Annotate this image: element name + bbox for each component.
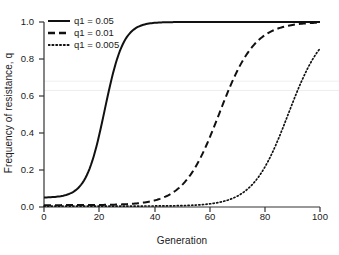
legend-label: q1 = 0.01 [74, 28, 114, 38]
legend-item: q1 = 0.005 [48, 39, 140, 51]
reference-lines [44, 81, 339, 90]
legend-swatch-dashed [48, 28, 70, 38]
legend-swatch-dotted [48, 40, 70, 50]
chart-legend: q1 = 0.05 q1 = 0.01 q1 = 0.005 [48, 15, 140, 51]
legend-label: q1 = 0.005 [74, 40, 119, 50]
series-line-q1-0005 [44, 49, 320, 207]
y-tick-marks [39, 22, 44, 207]
legend-swatch-solid [48, 16, 70, 26]
legend-label: q1 = 0.05 [74, 16, 114, 26]
legend-item: q1 = 0.01 [48, 27, 140, 39]
x-tick-marks [44, 207, 320, 212]
chart-figure: Frequency of resistance, q Generation 1.… [0, 0, 339, 255]
legend-item: q1 = 0.05 [48, 15, 140, 27]
